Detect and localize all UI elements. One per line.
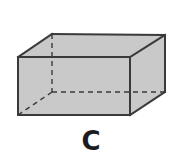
front-face <box>18 57 130 115</box>
figure-label: C <box>0 128 182 154</box>
edge-back-top <box>52 34 165 35</box>
figure-panel: C <box>0 0 182 160</box>
